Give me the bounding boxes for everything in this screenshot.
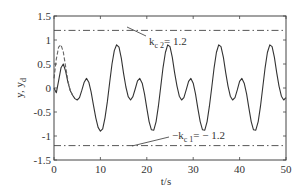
y-tick-label: -1 — [42, 130, 51, 142]
x-tick-label: 10 — [95, 163, 107, 175]
plot-area — [54, 30, 286, 145]
kc1-annotation: −kc 1= − 1.2 — [172, 129, 225, 144]
x-tick-label: 20 — [141, 163, 153, 175]
x-axis-label: t/s — [161, 175, 171, 187]
y-axis-label: y, yd — [13, 78, 28, 98]
series-y — [54, 45, 286, 131]
y-tick-label: -0.5 — [34, 106, 52, 118]
kc2-arrow — [127, 27, 146, 36]
y-tick-label: 0 — [46, 82, 52, 94]
x-tick-label: 50 — [281, 163, 293, 175]
kc1-arrow — [132, 137, 169, 146]
x-tick-label: 30 — [188, 163, 200, 175]
y-tick-label: -1.5 — [34, 154, 52, 166]
axis-ticks: 010203040501.510.50-0.5-1-1.5 — [34, 10, 292, 175]
x-tick-label: 40 — [234, 163, 246, 175]
y-tick-label: 1 — [46, 34, 52, 46]
x-tick-label: 0 — [51, 163, 57, 175]
y-tick-label: 0.5 — [37, 58, 51, 70]
y-tick-label: 1.5 — [37, 10, 51, 22]
chart-svg: 010203040501.510.50-0.5-1-1.5 kc 2= 1.2 … — [0, 0, 304, 194]
kc2-annotation: kc 2= 1.2 — [149, 35, 187, 50]
